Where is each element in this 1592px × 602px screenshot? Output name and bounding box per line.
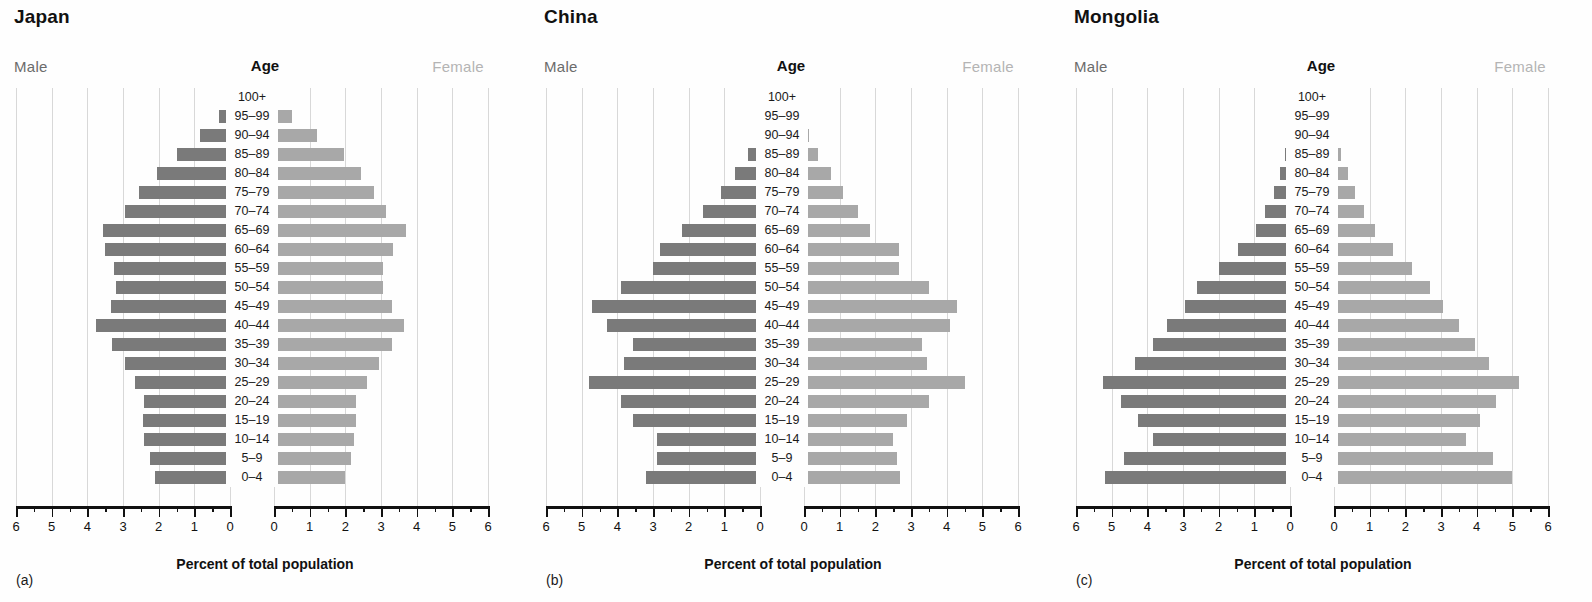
axis-tick-label: 2 (1402, 519, 1409, 534)
axis-tick-major (52, 506, 54, 517)
pyramid-row: 100+ (0, 88, 530, 107)
pyramid-row: 25–29 (1060, 373, 1590, 392)
panel-label: (b) (546, 572, 563, 588)
pyramid-row: 55–59 (0, 259, 530, 278)
age-label-backdrop (226, 430, 278, 449)
pyramid-row: 30–34 (530, 354, 1060, 373)
axis-tick-label: 6 (12, 519, 19, 534)
axis-tick-label: 1 (191, 519, 198, 534)
axis-tick-major (724, 506, 726, 517)
axis-tick-major (582, 506, 584, 517)
age-label-backdrop (226, 107, 278, 126)
male-bar (114, 262, 230, 275)
pyramid-row: 5–9 (1060, 449, 1590, 468)
pyramid-row: 40–44 (530, 316, 1060, 335)
female-bar (1334, 281, 1430, 294)
axis-tick-major (1548, 506, 1550, 517)
axis-tick-label: 2 (685, 519, 692, 534)
female-bar (274, 395, 356, 408)
age-label-backdrop (756, 335, 808, 354)
country-title: Japan (14, 6, 70, 28)
female-bar (274, 167, 361, 180)
panel-china: ChinaMaleFemaleAge0–45–910–1415–1920–242… (530, 0, 1060, 602)
axis-tick-minor (600, 506, 602, 512)
pyramid-row: 10–14 (530, 430, 1060, 449)
male-bar (144, 433, 230, 446)
female-bar (804, 338, 922, 351)
pyramid-row: 35–39 (0, 335, 530, 354)
pyramid-row: 60–64 (0, 240, 530, 259)
axis-left: 0123456 (1076, 506, 1290, 522)
axis-tick-label: 5 (578, 519, 585, 534)
age-header: Age (0, 57, 530, 74)
pyramid-row: 10–14 (1060, 430, 1590, 449)
axis-tick-minor (965, 506, 967, 512)
age-label-backdrop (226, 164, 278, 183)
axis-tick-major (417, 506, 419, 517)
male-bar (144, 395, 230, 408)
male-bar (96, 319, 230, 332)
female-bar (274, 186, 374, 199)
axis-tick-minor (435, 506, 437, 512)
pyramid-row: 45–49 (0, 297, 530, 316)
axis-tick-major (653, 506, 655, 517)
axis-left: 0123456 (16, 506, 230, 522)
panel-mongolia: MongoliaMaleFemaleAge0–45–910–1415–1920–… (1060, 0, 1592, 602)
pyramid-row: 10–14 (0, 430, 530, 449)
pyramid-row: 80–84 (0, 164, 530, 183)
pyramid-row: 15–19 (1060, 411, 1590, 430)
pyramid-row: 95–99 (530, 107, 1060, 126)
pyramid-row: 90–94 (1060, 126, 1590, 145)
pyramid-figure: JapanMaleFemaleAge0–45–910–1415–1920–242… (0, 0, 1592, 602)
axis-right: 0123456 (1334, 506, 1548, 522)
male-bar (621, 395, 760, 408)
male-bar (139, 186, 230, 199)
axis-tick-major (1147, 506, 1149, 517)
pyramid-row: 35–39 (1060, 335, 1590, 354)
axis-tick-major (982, 506, 984, 517)
pyramid-row: 80–84 (1060, 164, 1590, 183)
female-bar (1334, 262, 1412, 275)
male-bar (125, 205, 230, 218)
axis-tick-major (1334, 506, 1336, 517)
pyramid-row: 85–89 (0, 145, 530, 164)
male-bar (155, 471, 230, 484)
axis-tick-label: 4 (943, 519, 950, 534)
male-bar (177, 148, 231, 161)
male-bar (1124, 452, 1290, 465)
female-bar (274, 148, 344, 161)
axis-tick-label: 3 (119, 519, 126, 534)
axis-tick-minor (671, 506, 673, 512)
male-bar (624, 357, 760, 370)
pyramid-row: 95–99 (1060, 107, 1590, 126)
pyramid-row: 65–69 (1060, 221, 1590, 240)
female-bar (1334, 224, 1375, 237)
pyramid-row: 95–99 (0, 107, 530, 126)
axis-tick-label: 1 (836, 519, 843, 534)
pyramid-row: 70–74 (1060, 202, 1590, 221)
country-title: China (544, 6, 598, 28)
age-label-backdrop (1286, 107, 1338, 126)
male-bar (1219, 262, 1290, 275)
axis-tick-major (194, 506, 196, 517)
pyramid-row: 45–49 (530, 297, 1060, 316)
pyramid-row: 0–4 (1060, 468, 1590, 487)
female-bar (274, 205, 386, 218)
male-bar (589, 376, 760, 389)
male-bar (1105, 471, 1290, 484)
male-bar (157, 167, 230, 180)
male-bar (682, 224, 760, 237)
age-label-backdrop (756, 202, 808, 221)
axis-tick-minor (292, 506, 294, 512)
axis-tick-label: 6 (1544, 519, 1551, 534)
age-label-backdrop (226, 88, 278, 107)
axis-tick-minor (399, 506, 401, 512)
axis-right: 0123456 (274, 506, 488, 522)
pyramid-row: 75–79 (1060, 183, 1590, 202)
female-bar (804, 471, 900, 484)
pyramid-row: 75–79 (0, 183, 530, 202)
age-label-backdrop (756, 107, 808, 126)
axis-tick-label: 5 (979, 519, 986, 534)
pyramid-row: 60–64 (530, 240, 1060, 259)
female-bar (274, 243, 393, 256)
